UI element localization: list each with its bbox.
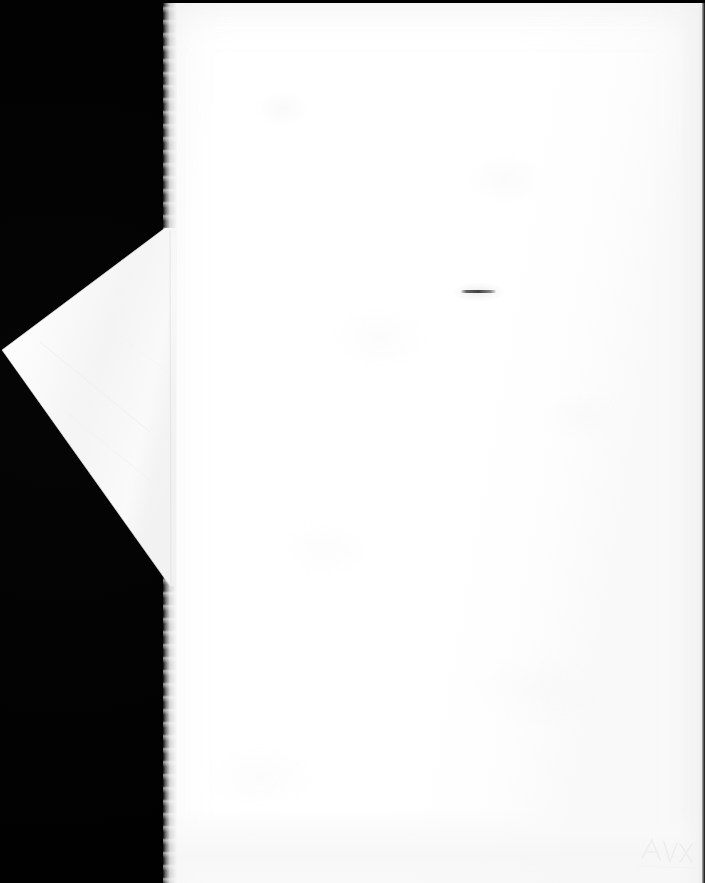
scanned-document-canvas (0, 0, 705, 883)
fold-sheen-highlight (2, 228, 176, 586)
page-body-text (163, 3, 164, 4)
document-page (163, 3, 705, 883)
paper-shading-band (163, 808, 705, 883)
scanner-bed-top-strip (163, 0, 705, 3)
folded-corner-flap (0, 222, 176, 594)
paper-grain-texture (163, 3, 705, 883)
